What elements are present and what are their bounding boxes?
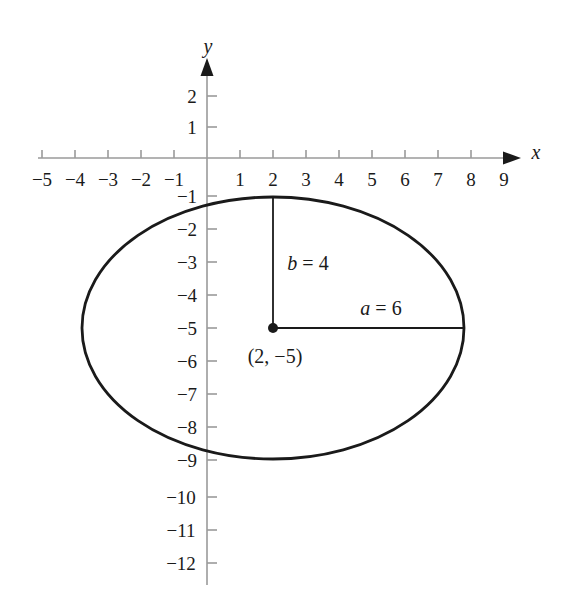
- y-axis-label: y: [204, 36, 213, 56]
- y-tick-label--5: −5: [177, 319, 197, 338]
- semi-major-axis-label: a = 6: [360, 298, 401, 318]
- plot-canvas: [0, 0, 568, 603]
- x-axis-label: x: [532, 142, 541, 162]
- y-tick-label--9: −9: [177, 451, 197, 470]
- x-tick-label-9: 9: [499, 170, 509, 189]
- y-tick-label--11: −11: [166, 521, 195, 540]
- y-tick-label--8: −8: [177, 418, 197, 437]
- y-axis-ticks: [207, 96, 217, 563]
- y-tick-label--7: −7: [177, 385, 197, 404]
- y-tick-label-2: 2: [187, 87, 197, 106]
- y-tick-label--6: −6: [177, 352, 197, 371]
- x-tick-label-8: 8: [466, 170, 476, 189]
- x-tick-label-4: 4: [334, 170, 344, 189]
- x-tick-label--5: −5: [32, 170, 52, 189]
- y-axis-arrowhead: [201, 58, 214, 76]
- x-tick-label-1: 1: [235, 170, 245, 189]
- x-tick-label-7: 7: [433, 170, 443, 189]
- y-tick-label--10: −10: [166, 488, 196, 507]
- x-axis-ticks: [42, 150, 471, 158]
- semi-minor-axis-label: b = 4: [287, 253, 328, 273]
- ellipse-graph-figure: −5 −4 −3 −2 −1 1 2 3 4 5 6 7 8 9 2 1 −1 …: [0, 0, 568, 603]
- x-tick-label-3: 3: [301, 170, 311, 189]
- x-tick-label-2: 2: [268, 170, 278, 189]
- y-tick-label--3: −3: [177, 253, 197, 272]
- x-tick-label-6: 6: [400, 170, 410, 189]
- center-point-label: (2, −5): [248, 346, 303, 366]
- x-tick-label--2: −2: [131, 170, 151, 189]
- y-tick-label-1: 1: [187, 118, 197, 137]
- y-tick-label--12: −12: [166, 554, 196, 573]
- x-tick-label--4: −4: [65, 170, 85, 189]
- center-point-marker: [268, 323, 278, 333]
- x-axis-arrowhead: [503, 152, 521, 165]
- y-tick-label--2: −2: [177, 220, 197, 239]
- y-tick-label--4: −4: [177, 286, 197, 305]
- y-tick-label--1: −1: [177, 187, 197, 206]
- x-tick-label-5: 5: [367, 170, 377, 189]
- x-tick-label--3: −3: [98, 170, 118, 189]
